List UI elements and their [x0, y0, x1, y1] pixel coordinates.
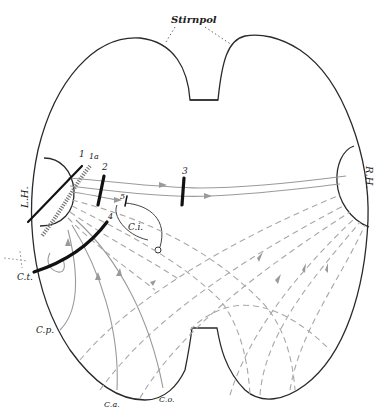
right-hemisphere-region: R.H.: [337, 146, 375, 227]
ci-label: C.i.: [128, 222, 143, 232]
cut-5-label: 5: [120, 192, 125, 201]
cut-1a-label: 1a: [89, 152, 99, 161]
cut-4-label: 4: [107, 212, 113, 221]
cut-3-label: 3: [182, 166, 188, 176]
cut-labels: 1 1a 2 3 5 4: [79, 149, 188, 221]
cut-1-label: 1: [79, 149, 85, 159]
ct-label: C.t.: [17, 272, 33, 282]
ca-label: C.a.: [104, 400, 120, 409]
ct-annotation: C.t.: [4, 251, 33, 282]
left-hemisphere-region: L.H.: [19, 158, 74, 226]
co-label: C.o.: [159, 395, 175, 404]
commissural-fibers: [68, 176, 346, 203]
cut-5: [125, 196, 127, 206]
brain-diagram: Stirnpol L.H. R.H. C.i.: [0, 0, 386, 416]
cut-3: [182, 178, 184, 205]
right-hemisphere-label: R.H.: [364, 165, 375, 189]
cp-label: C.p.: [36, 325, 54, 335]
brain-outline: [32, 35, 369, 400]
left-hemisphere-label: L.H.: [19, 186, 30, 209]
stirnpol-annotation: Stirnpol: [166, 14, 232, 45]
stirnpol-label: Stirnpol: [171, 14, 217, 25]
terminal-node: [155, 247, 161, 253]
cut-2-label: 2: [101, 162, 108, 172]
